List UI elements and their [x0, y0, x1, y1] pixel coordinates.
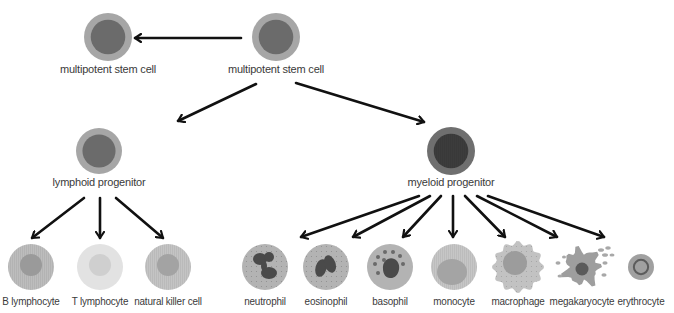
granule: [376, 255, 380, 259]
cell-nucleus: [89, 254, 111, 276]
cell-stem-main: [252, 13, 300, 61]
cell-nucleus: [20, 254, 42, 276]
cell-nucleus: [503, 251, 527, 275]
cell-membrane: [628, 254, 654, 280]
label-neutrophil: neutrophil: [244, 295, 286, 307]
granule: [382, 258, 386, 262]
cell-stem-left: [84, 13, 132, 61]
nucleus-lobe: [264, 252, 274, 262]
cell-b-lymphocyte: [8, 244, 54, 290]
label-stem-left: multipotent stem cell: [60, 63, 156, 75]
arrow-myeloid-to-macrophage: [465, 196, 505, 237]
label-nk-cell: natural killer cell: [134, 295, 202, 307]
label-eosinophil: eosinophil: [305, 295, 348, 307]
platelet: [556, 261, 561, 265]
arrow-stem-main-to-lymphoid: [178, 84, 256, 121]
platelet: [598, 248, 604, 252]
arrow-lymphoid-to-nk-cell: [116, 198, 163, 238]
diagram-canvas: [0, 0, 674, 313]
platelet: [562, 256, 566, 259]
granule: [376, 271, 380, 275]
label-macrophage: macrophage: [491, 295, 544, 307]
cell-megakaryocyte: [556, 246, 615, 286]
cell-nucleus: [157, 254, 179, 276]
platelet: [602, 253, 608, 257]
cell-eosinophil: [303, 244, 349, 290]
cell-basophil: [367, 244, 413, 290]
granule: [398, 254, 402, 258]
cell-macrophage: [492, 241, 544, 293]
hematopoiesis-diagram: multipotent stem cell multipotent stem c…: [0, 0, 674, 313]
cell-nucleus: [259, 20, 294, 55]
platelet: [605, 246, 611, 250]
cell-nucleus: [576, 263, 589, 276]
cell-nucleus: [437, 259, 467, 285]
granule: [383, 250, 387, 254]
label-monocyte: monocyte: [433, 295, 474, 307]
cell-monocyte: [431, 244, 477, 290]
cell-nucleus: [91, 20, 126, 55]
platelet: [558, 274, 563, 277]
arrow-myeloid-to-eosinophil: [353, 196, 430, 237]
cell-erythrocyte: [628, 254, 654, 280]
cell-nucleus: [82, 134, 115, 167]
arrow-stem-main-to-myeloid: [296, 83, 424, 122]
arrow-myeloid-to-basophil: [403, 196, 441, 237]
label-t-lymphocyte: T lymphocyte: [72, 295, 129, 307]
nucleus-texture: [434, 134, 469, 169]
cell-t-lymphocyte: [77, 244, 123, 290]
granule: [391, 250, 395, 254]
granule: [373, 262, 377, 266]
platelet: [601, 273, 606, 276]
label-myeloid-progenitor: myeloid progenitor: [408, 176, 495, 188]
cell-myeloid: [427, 127, 475, 175]
label-stem-main: multipotent stem cell: [228, 63, 324, 75]
label-megakaryocyte: megakaryocyte: [550, 295, 615, 307]
label-lymphoid-progenitor: lymphoid progenitor: [53, 176, 146, 188]
label-erythrocyte: erythrocyte: [618, 295, 665, 307]
cells-layer: [8, 13, 654, 293]
cell-lymphoid: [76, 128, 122, 174]
arrow-lymphoid-to-b-lymphocyte: [32, 198, 84, 238]
cell-nk-cell: [145, 244, 191, 290]
label-b-lymphocyte: B lymphocyte: [2, 295, 59, 307]
nucleus-lobe: [261, 267, 277, 279]
cell-neutrophil: [242, 244, 288, 290]
label-basophil: basophil: [372, 295, 407, 307]
arrow-myeloid-to-neutrophil: [301, 196, 419, 237]
platelet: [610, 253, 615, 256]
granule: [401, 262, 405, 266]
platelet: [602, 261, 607, 264]
